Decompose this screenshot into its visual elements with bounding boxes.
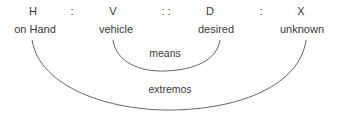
inner-arc-label: means (149, 47, 181, 59)
analogy-diagram: H : V : : D : X on Hand vehicle desired … (0, 0, 344, 114)
outer-arc-label: extremos (148, 83, 191, 95)
